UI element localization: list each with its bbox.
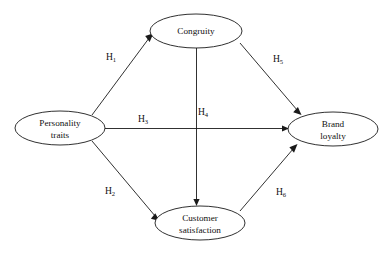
hypothesis-label-h2-subscript: 2: [112, 190, 115, 197]
hypothesis-label-h4-subscript: 4: [205, 111, 209, 118]
hypothesis-label-h2: H2: [105, 185, 115, 197]
edge-h5-line: [240, 43, 298, 111]
hypothesis-label-h5-subscript: 5: [280, 58, 284, 65]
node-customer-satisfaction: Customer satisfaction: [155, 206, 245, 240]
node-customer-satisfaction-shape: [155, 206, 245, 240]
edge-h6-line: [240, 149, 294, 212]
edge-h2-line: [92, 141, 156, 217]
node-personality-traits-label-line1: Personality: [39, 118, 81, 128]
hypothesis-label-h3-subscript: 3: [145, 118, 149, 125]
node-customer-satisfaction-label-line2: satisfaction: [179, 225, 221, 235]
node-customer-satisfaction-label-line1: Customer: [182, 213, 218, 223]
edge-h4-arrowhead: [193, 199, 199, 206]
hypothesis-label-h5: H5: [273, 53, 284, 65]
node-personality-traits: Personality traits: [15, 111, 105, 145]
edge-h6: [240, 144, 298, 211]
edge-h3: [105, 125, 289, 131]
edge-h5: [240, 43, 302, 115]
edge-h2: [92, 141, 160, 221]
research-model-diagram: Congruity Personality traits Brand loyal…: [0, 0, 387, 253]
diagram-canvas: Congruity Personality traits Brand loyal…: [0, 0, 387, 253]
node-brand-loyalty-label-line1: Brand: [322, 119, 345, 129]
edge-h1-line: [92, 38, 150, 116]
hypothesis-label-h1: H1: [106, 51, 116, 63]
node-brand-loyalty: Brand loyalty: [288, 112, 378, 146]
edge-h5-arrowhead: [293, 107, 301, 115]
node-personality-traits-label-line2: traits: [51, 130, 70, 140]
hypothesis-label-h4: H4: [198, 106, 209, 118]
hypothesis-label-h3: H3: [138, 113, 149, 125]
node-congruity-label: Congruity: [177, 26, 215, 36]
node-congruity: Congruity: [150, 14, 242, 48]
node-brand-loyalty-label-line2: loyalty: [320, 131, 346, 141]
node-personality-traits-shape: [15, 111, 105, 145]
hypothesis-label-h6-subscript: 6: [283, 191, 287, 198]
hypothesis-label-h6: H6: [276, 186, 287, 198]
hypothesis-label-h1-subscript: 1: [113, 56, 116, 63]
node-brand-loyalty-shape: [288, 112, 378, 146]
edge-h4: [193, 48, 199, 206]
edge-h1: [92, 33, 154, 115]
